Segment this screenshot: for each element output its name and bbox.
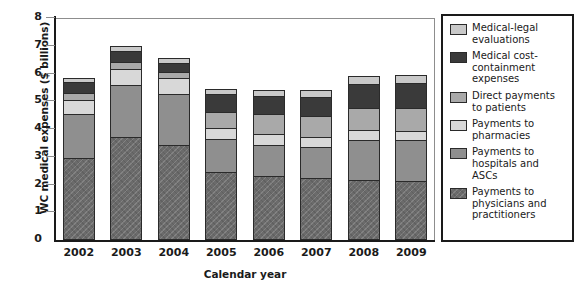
- y-tick-label: 4: [34, 121, 42, 134]
- y-tick: 3: [46, 156, 55, 157]
- y-tick-label: 6: [34, 66, 42, 79]
- bar-segment: [205, 128, 237, 140]
- bar-2004[interactable]: [158, 58, 190, 240]
- bar-segment: [158, 94, 190, 145]
- bar-segment: [300, 90, 332, 97]
- legend-label: Medical-legal evaluations: [472, 22, 567, 45]
- bar-segment: [395, 108, 427, 131]
- bar-segment: [63, 100, 95, 114]
- bar-segment: [158, 78, 190, 94]
- bar-segment: [158, 63, 190, 72]
- y-tick: 1: [46, 211, 55, 212]
- y-tick-label: 8: [34, 10, 42, 23]
- legend-item[interactable]: Medical-legal evaluations: [450, 22, 567, 45]
- bar-segment: [158, 72, 190, 79]
- plot-border-right: [434, 18, 435, 240]
- bar-segment: [348, 108, 380, 130]
- y-tick-label: 3: [34, 149, 42, 162]
- y-tick: 2: [46, 184, 55, 185]
- bar-segment: [205, 94, 237, 111]
- bar-segment: [348, 130, 380, 140]
- bar-segment: [253, 134, 285, 145]
- bar-segment: [110, 137, 142, 240]
- legend-label: Payments to physicians and practitioners: [472, 186, 567, 221]
- bar-segment: [395, 140, 427, 181]
- bar-segment: [348, 140, 380, 179]
- bar-segment: [110, 62, 142, 69]
- bar-segment: [110, 85, 142, 136]
- y-axis-line: [54, 16, 56, 242]
- legend-label: Direct payments to patients: [472, 90, 567, 113]
- bar-segment: [205, 139, 237, 172]
- bar-segment: [63, 158, 95, 240]
- bar-2002[interactable]: [63, 78, 95, 240]
- legend-label: Payments to hospitals and ASCs: [472, 146, 567, 181]
- y-tick-label: 0: [34, 232, 42, 245]
- bar-segment: [253, 176, 285, 240]
- y-tick: 6: [46, 73, 55, 74]
- x-axis-line: [54, 240, 435, 242]
- chart-legend: Medical-legal evaluationsMedical cost-co…: [441, 14, 574, 242]
- bar-segment: [348, 84, 380, 108]
- bar-segment: [348, 180, 380, 240]
- bar-2009[interactable]: [395, 75, 427, 240]
- chart-figure: WC medical expenses ($ billions) 0123456…: [0, 0, 582, 299]
- y-tick-label: 5: [34, 93, 42, 106]
- bar-2008[interactable]: [348, 76, 380, 240]
- y-tick-label: 7: [34, 38, 42, 51]
- y-tick: 4: [46, 128, 55, 129]
- legend-swatch-icon: [450, 120, 467, 131]
- y-tick-label: 2: [34, 177, 42, 190]
- bar-segment: [253, 96, 285, 114]
- y-tick: 5: [46, 100, 55, 101]
- bar-segment: [63, 93, 95, 100]
- bar-segment: [158, 145, 190, 240]
- legend-swatch-icon: [450, 188, 467, 199]
- legend-item[interactable]: Payments to hospitals and ASCs: [450, 146, 567, 181]
- bar-segment: [395, 131, 427, 140]
- bar-segment: [395, 83, 427, 108]
- bar-segment: [110, 51, 142, 63]
- legend-item[interactable]: Payments to pharmacies: [450, 118, 567, 141]
- bar-2006[interactable]: [253, 90, 285, 240]
- bar-2005[interactable]: [205, 89, 237, 240]
- legend-item[interactable]: Medical cost-containment expenses: [450, 50, 567, 85]
- bar-segment: [253, 145, 285, 176]
- bar-segment: [300, 97, 332, 116]
- y-tick: 8: [46, 17, 55, 18]
- bar-segment: [300, 178, 332, 240]
- legend-swatch-icon: [450, 52, 467, 63]
- bar-segment: [395, 75, 427, 83]
- bar-segment: [395, 181, 427, 240]
- bar-segment: [253, 114, 285, 134]
- legend-label: Medical cost-containment expenses: [472, 50, 567, 85]
- y-axis-title: WC medical expenses ($ billions): [38, 0, 50, 238]
- bar-segment: [205, 112, 237, 128]
- bar-2007[interactable]: [300, 90, 332, 240]
- x-tick-label: 2009: [381, 246, 441, 259]
- bar-segment: [63, 82, 95, 94]
- bar-segment: [300, 137, 332, 148]
- legend-swatch-icon: [450, 92, 467, 103]
- bar-segment: [300, 116, 332, 136]
- bar-segment: [110, 69, 142, 85]
- y-tick-label: 1: [34, 204, 42, 217]
- legend-item[interactable]: Direct payments to patients: [450, 90, 567, 113]
- x-axis-title: Calendar year: [55, 268, 435, 280]
- plot-area: 012345678 200220032004200520062007200820…: [55, 18, 435, 240]
- bar-segment: [300, 147, 332, 178]
- bar-segment: [63, 114, 95, 158]
- y-tick: 7: [46, 45, 55, 46]
- bar-2003[interactable]: [110, 46, 142, 240]
- y-tick: 0: [46, 239, 55, 240]
- legend-label: Payments to pharmacies: [472, 118, 567, 141]
- plot-border-top: [55, 18, 435, 19]
- legend-swatch-icon: [450, 148, 467, 159]
- legend-item[interactable]: Payments to physicians and practitioners: [450, 186, 567, 221]
- bar-segment: [348, 76, 380, 83]
- legend-swatch-icon: [450, 24, 467, 35]
- bar-segment: [205, 172, 237, 240]
